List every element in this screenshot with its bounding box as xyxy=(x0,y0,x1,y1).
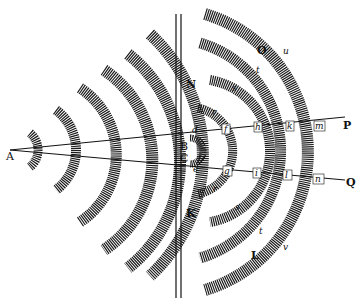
wavefront-1 xyxy=(30,133,38,167)
point-s-upper: s xyxy=(232,83,237,93)
point-u: u xyxy=(283,46,289,56)
point-n: n xyxy=(315,174,321,184)
label-A: A xyxy=(5,150,15,163)
lower-point-labels: e g r i s l t n v xyxy=(193,164,324,252)
label-Q: Q xyxy=(346,176,356,189)
slit-wavefront-3 xyxy=(210,80,270,222)
point-t-upper: t xyxy=(256,65,260,75)
label-K: K xyxy=(186,207,196,220)
label-L: L xyxy=(251,249,259,262)
point-l: l xyxy=(285,170,288,180)
point-h: h xyxy=(255,122,261,132)
point-s-lower: s xyxy=(235,202,240,212)
point-i: i xyxy=(255,168,258,178)
point-r-lower: r xyxy=(213,184,218,194)
point-v-lower: v xyxy=(283,242,288,252)
point-d: d xyxy=(192,125,198,135)
point-m: m xyxy=(315,121,324,131)
label-O: O xyxy=(257,44,267,57)
point-t-lower: t xyxy=(259,226,263,236)
point-k: k xyxy=(287,121,292,131)
point-r-upper: r xyxy=(212,107,217,117)
wavefront-2 xyxy=(56,110,76,190)
wavefront-3 xyxy=(80,88,116,222)
slit-wavefront-2 xyxy=(198,108,233,194)
point-e: e xyxy=(193,164,198,174)
label-N: N xyxy=(186,78,196,91)
label-P: P xyxy=(343,119,351,132)
point-g: g xyxy=(224,166,230,176)
label-C: C xyxy=(180,152,188,165)
interference-diagram: A B C N K O L P Q d r f s h t k m u e g … xyxy=(0,0,362,307)
source-wavefronts xyxy=(30,34,203,276)
